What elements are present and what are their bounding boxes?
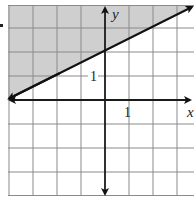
x-tick-label: 1	[124, 105, 131, 120]
coordinate-plane: y x 1 1	[0, 0, 194, 201]
margin-tick	[0, 24, 3, 27]
y-tick-label: 1	[90, 69, 97, 84]
y-axis-label: y	[110, 6, 119, 22]
x-axis-label: x	[186, 104, 194, 120]
